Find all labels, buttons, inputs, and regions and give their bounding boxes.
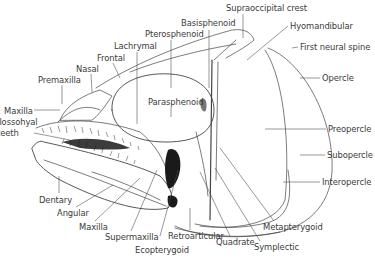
label-maxilla-bottom: Maxilla xyxy=(79,222,108,232)
leader-first-neural-spine xyxy=(292,47,298,48)
label-lachrymal: Lachrymal xyxy=(114,41,157,51)
label-symplectic: Symplectic xyxy=(254,242,299,252)
label-first-neural-spine: First neural spine xyxy=(300,42,370,52)
label-metapterygoid: Metapterygoid xyxy=(263,222,323,232)
leader-maxilla-bottom xyxy=(95,178,140,221)
label-dentary: Dentary xyxy=(39,195,72,205)
label-preopercle: Preopercle xyxy=(328,124,371,134)
leader-angular xyxy=(76,185,113,207)
mouth-cavity-shade xyxy=(62,139,130,150)
leader-metapterygoid xyxy=(220,148,274,221)
label-opercle: Opercle xyxy=(322,73,354,83)
label-maxilla-top: Maxilla xyxy=(4,106,33,116)
leader-hyomandibular xyxy=(247,26,288,60)
orbit xyxy=(112,74,214,142)
leader-nasal xyxy=(91,74,92,92)
label-premaxilla: Premaxilla xyxy=(38,75,81,85)
label-supraoccipital-crest: Supraoccipital crest xyxy=(226,3,307,13)
label-interopercle: Interopercle xyxy=(322,177,371,187)
label-angular: Angular xyxy=(57,208,89,218)
label-supermaxilla: Supermaxilla xyxy=(105,232,159,242)
preopercle-outline xyxy=(200,50,287,227)
label-pterosphenoid: Pterosphenoid xyxy=(145,29,204,39)
label-quadrate: Quadrate xyxy=(216,237,255,247)
leader-glossohyal xyxy=(34,133,70,140)
label-subopercle: Subopercle xyxy=(327,150,373,160)
label-hyomandibular: Hyomandibular xyxy=(290,21,353,31)
label-glossohyal-teeth: Glossohyal xyxy=(0,117,38,127)
label-frontal: Frontal xyxy=(97,53,125,63)
retroarticular-shade xyxy=(165,149,180,188)
label-basisphenoid: Basisphenoid xyxy=(181,18,236,28)
leader-supermaxilla xyxy=(131,170,157,231)
snout xyxy=(60,90,112,120)
label-parasphenoid: Parasphenoid xyxy=(148,97,203,107)
label-nasal: Nasal xyxy=(76,64,99,74)
label-ecopterygoid: Ecopterygoid xyxy=(135,245,189,255)
label-glossohyal-teeth-line2: teeth xyxy=(0,128,19,138)
